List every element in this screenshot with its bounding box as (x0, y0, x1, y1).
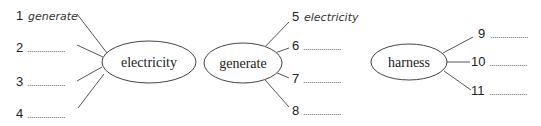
item-number: 6 (292, 38, 299, 53)
connector-line (78, 74, 104, 108)
item-answer: generate (28, 10, 78, 23)
center-word: harness (388, 55, 430, 70)
item-number: 4 (16, 106, 23, 121)
connector-line (443, 37, 473, 53)
answer-blank[interactable]: ................... (27, 44, 65, 54)
connector-line (77, 67, 102, 81)
item-number: 7 (292, 71, 299, 86)
word-web-electricity: electricity 1 generate 2 ...............… (16, 8, 196, 121)
word-web-harness: harness 9 ................... 10 .......… (371, 26, 528, 98)
center-word: electricity (121, 55, 177, 70)
answer-blank[interactable]: ................... (303, 107, 341, 117)
item-number: 9 (478, 26, 485, 41)
center-word: generate (219, 56, 266, 71)
connector-line (444, 71, 471, 90)
item-number: 8 (292, 103, 299, 118)
answer-blank[interactable]: ................... (489, 58, 527, 68)
item-number: 2 (16, 40, 23, 55)
answer-blank[interactable]: ................... (27, 110, 65, 120)
item-number: 5 (292, 9, 299, 24)
connector-line (77, 45, 103, 57)
word-web-diagrams: electricity 1 generate 2 ...............… (0, 0, 541, 126)
item-number: 1 (16, 8, 23, 23)
answer-blank[interactable]: ................... (27, 78, 65, 88)
answer-blank[interactable]: ................... (303, 42, 341, 52)
item-number: 10 (471, 54, 485, 69)
item-number: 3 (16, 74, 23, 89)
answer-blank[interactable]: ................... (303, 75, 341, 85)
word-web-generate: generate 5 electricity 6 ...............… (204, 9, 359, 118)
answer-blank[interactable]: ................... (489, 87, 527, 97)
item-answer: electricity (304, 11, 359, 24)
item-number: 11 (471, 83, 485, 98)
answer-blank[interactable]: ................... (490, 30, 528, 40)
